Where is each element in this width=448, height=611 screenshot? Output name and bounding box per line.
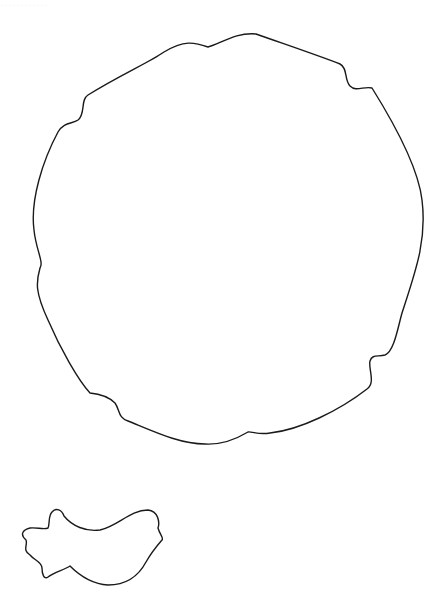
large-rounded-blob [33, 34, 423, 444]
shape-canvas [0, 0, 448, 611]
small-bird-blob [23, 509, 163, 585]
